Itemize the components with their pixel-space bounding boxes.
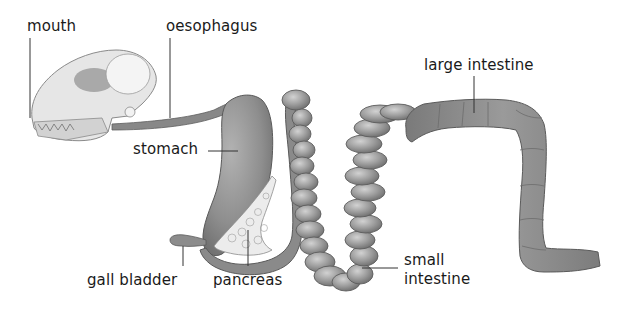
label-small-intestine-line2: intestine	[404, 271, 470, 288]
large-intestine-shape	[406, 99, 600, 272]
small-intestine-shape	[282, 90, 416, 291]
gall-bladder-shape	[170, 235, 206, 247]
label-oesophagus: oesophagus	[166, 18, 257, 35]
label-gall-bladder: gall bladder	[87, 272, 177, 289]
digestive-system-diagram: mouth oesophagus stomach gall bladder pa…	[0, 0, 619, 309]
label-small-intestine-line1: small	[404, 252, 444, 269]
diagram-artwork	[0, 0, 619, 309]
label-pancreas: pancreas	[213, 272, 282, 289]
label-mouth: mouth	[27, 18, 76, 35]
label-stomach: stomach	[133, 141, 198, 158]
label-large-intestine: large intestine	[424, 57, 534, 74]
